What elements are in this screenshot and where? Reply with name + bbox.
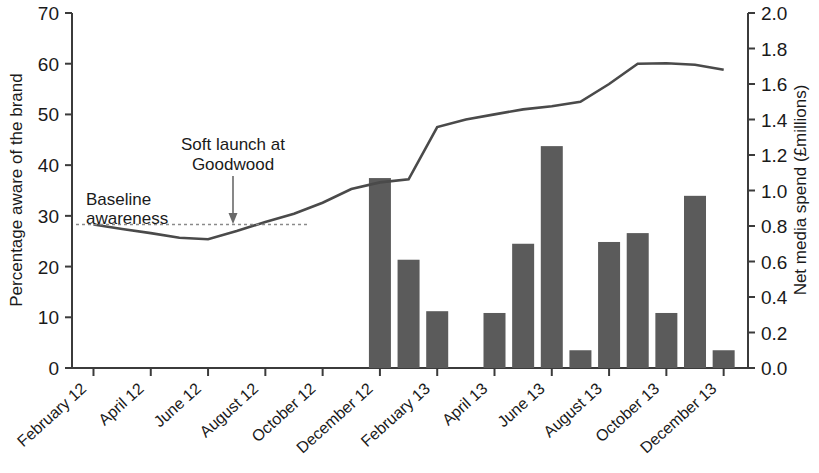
soft-launch-arrowhead (229, 213, 238, 224)
chart-container: 010203040506070 0.00.20.40.60.81.01.21.4… (0, 0, 819, 473)
right-tick-label: 0.2 (761, 323, 787, 344)
left-tick-label: 40 (38, 155, 59, 176)
bar-series (369, 146, 735, 368)
bar (655, 313, 677, 368)
x-tick-label: June 13 (494, 380, 548, 431)
baseline-annotation-line1: Baseline (86, 190, 151, 209)
right-tick-label: 1.2 (761, 145, 787, 166)
chart-svg: 010203040506070 0.00.20.40.60.81.01.21.4… (0, 0, 819, 473)
left-tick-label: 70 (38, 3, 59, 24)
left-axis-title: Percentage aware of the brand (7, 73, 26, 306)
right-axis-tick-labels: 0.00.20.40.60.81.01.21.41.61.82.0 (761, 3, 788, 379)
right-tick-label: 0.6 (761, 252, 787, 273)
baseline-annotation-line2: awareness (86, 209, 168, 228)
right-tick-label: 1.6 (761, 74, 787, 95)
bar (541, 146, 563, 368)
x-tick-label: June 12 (150, 380, 204, 431)
x-tick-label: April 12 (95, 380, 147, 429)
left-tick-label: 30 (38, 206, 59, 227)
right-tick-label: 0.8 (761, 216, 787, 237)
bar (512, 244, 534, 368)
right-tick-label: 1.4 (761, 110, 788, 131)
right-tick-label: 1.0 (761, 181, 787, 202)
bar (369, 178, 391, 368)
left-tick-label: 10 (38, 307, 59, 328)
bar (713, 350, 735, 368)
right-axis-title: Net media spend (£millions) (791, 85, 810, 296)
bar (398, 260, 420, 368)
right-tick-label: 0.4 (761, 287, 788, 308)
bar (426, 311, 448, 368)
bar (684, 196, 706, 368)
bar (627, 233, 649, 368)
right-tick-label: 2.0 (761, 3, 787, 24)
right-tick-label: 1.8 (761, 39, 787, 60)
soft-launch-annotation-line1: Soft launch at (181, 135, 285, 154)
right-axis-ticks (748, 13, 755, 368)
x-axis-ticks (93, 368, 723, 376)
left-tick-label: 60 (38, 54, 59, 75)
bar (569, 350, 591, 368)
right-tick-label: 0.0 (761, 358, 787, 379)
bar (484, 313, 506, 368)
left-axis-tick-labels: 010203040506070 (38, 3, 59, 379)
x-tick-label: April 13 (439, 380, 491, 429)
soft-launch-annotation-line2: Goodwood (192, 155, 274, 174)
bar (598, 242, 620, 368)
x-tick-label: February 12 (14, 380, 90, 450)
left-tick-label: 50 (38, 104, 59, 125)
left-axis-ticks (65, 13, 72, 368)
x-axis-tick-labels: February 12April 12June 12August 12Octob… (14, 380, 720, 457)
left-tick-label: 0 (48, 358, 59, 379)
left-tick-label: 20 (38, 257, 59, 278)
